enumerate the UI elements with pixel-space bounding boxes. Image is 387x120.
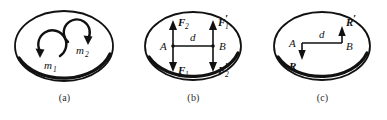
panel-b-canvas: A B d F 2 F 1 F 1 ′ F 2 ′ [129,0,258,95]
resultant-r-label: R [288,60,296,72]
point-a-label: A [159,40,167,52]
panel-a: m 1 m 2 (a) [0,0,129,120]
moment-arrow-1 [36,30,67,58]
force-f1-prime-mark: ′ [225,12,228,24]
caption-a: (a) [0,92,129,103]
point-b-label: B [346,40,353,52]
panel-a-canvas: m 1 m 2 [0,0,129,95]
body-outline-a [15,11,113,81]
caption-b: (b) [129,92,258,103]
resultant-r-prime-up [338,26,345,43]
force-f1-sub: 1 [185,70,189,79]
panel-c: A B d R R ′ (c) [258,0,387,120]
resultant-r-arrowhead [298,50,305,60]
moment-label-1: m [44,59,52,71]
force-f2-prime-mark: ′ [225,60,228,72]
figure-three-panel-force-couple: m 1 m 2 (a) [0,0,387,120]
force-f2-up-arrowhead [169,20,177,30]
panel-c-canvas: A B d R R ′ [258,0,387,95]
resultant-r-down [298,43,305,60]
force-f1-prime-up-arrowhead [209,20,217,30]
point-a-label: A [288,37,296,49]
point-a-dot [171,44,175,48]
force-f1-down-arrowhead [169,62,177,72]
caption-c: (c) [258,92,387,103]
panel-b: A B d F 2 F 1 F 1 ′ F 2 ′ (b) [129,0,258,120]
moment-label-2: m [76,44,84,56]
point-b-label: B [219,40,226,52]
moment-label-1-sub: 1 [53,65,57,74]
point-b-dot [211,44,215,48]
moment-label-2-sub: 2 [85,50,89,59]
moment-arrow-2 [64,19,93,45]
resultant-r-prime-arrowhead [338,26,345,36]
force-f2-sub: 2 [185,22,189,31]
resultant-r-prime-mark: ′ [353,12,356,24]
distance-label-b: d [190,31,196,43]
distance-label-c: d [319,28,325,40]
